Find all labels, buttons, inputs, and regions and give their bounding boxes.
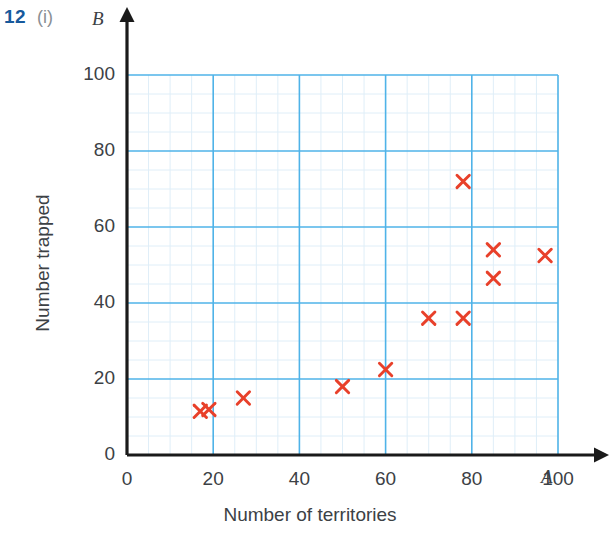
data-point	[457, 312, 469, 324]
data-point-markers	[194, 175, 551, 417]
x-tick-label: 100	[528, 468, 588, 490]
data-point	[457, 175, 469, 187]
x-tick-label: 0	[97, 468, 157, 490]
y-tick-label: 60	[53, 215, 115, 237]
x-tick-label: 80	[442, 468, 502, 490]
y-tick-label: 100	[53, 63, 115, 85]
y-tick-label: 0	[53, 443, 115, 465]
y-axis-title: Number trapped	[32, 168, 54, 358]
x-axis-title: Number of territories	[180, 504, 440, 526]
y-axis-variable-label: B	[92, 8, 104, 30]
x-tick-label: 60	[356, 468, 416, 490]
minor-gridlines	[127, 75, 558, 455]
y-tick-label: 20	[53, 367, 115, 389]
scatter-plot: B A Number trapped Number of territories…	[0, 0, 609, 535]
x-tick-label: 20	[183, 468, 243, 490]
y-tick-label: 80	[53, 139, 115, 161]
x-tick-label: 40	[269, 468, 329, 490]
y-tick-label: 40	[53, 291, 115, 313]
data-point	[539, 249, 551, 261]
